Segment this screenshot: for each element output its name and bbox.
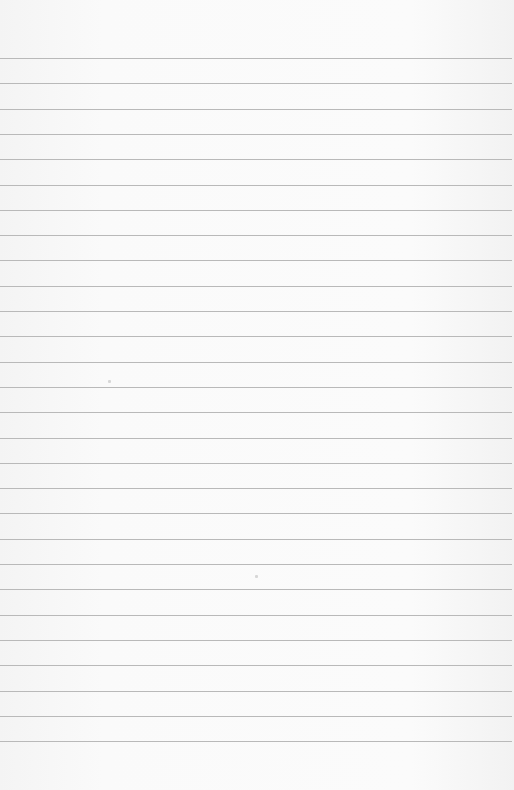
ruled-line xyxy=(0,488,512,489)
ruled-line xyxy=(0,539,512,540)
ruled-line xyxy=(0,716,512,717)
ruled-line xyxy=(0,286,512,287)
ruled-line xyxy=(0,336,512,337)
ruled-line xyxy=(0,564,512,565)
ruled-line xyxy=(0,134,512,135)
ruled-line xyxy=(0,260,512,261)
ruled-line xyxy=(0,741,512,742)
ruled-line xyxy=(0,362,512,363)
ruled-line xyxy=(0,235,512,236)
ruled-line xyxy=(0,109,512,110)
ruled-line xyxy=(0,83,512,84)
ruled-line xyxy=(0,412,512,413)
ruled-line xyxy=(0,691,512,692)
ruled-line xyxy=(0,615,512,616)
ruled-line xyxy=(0,210,512,211)
paper-speck xyxy=(255,575,258,578)
paper-speck xyxy=(108,380,111,383)
ruled-line xyxy=(0,640,512,641)
ruled-line xyxy=(0,589,512,590)
ruled-line xyxy=(0,159,512,160)
ruled-line xyxy=(0,311,512,312)
ruled-line xyxy=(0,438,512,439)
ruled-line xyxy=(0,58,512,59)
ruled-line xyxy=(0,665,512,666)
ruled-line xyxy=(0,387,512,388)
ruled-line xyxy=(0,513,512,514)
lined-paper xyxy=(0,0,514,790)
ruled-line xyxy=(0,185,512,186)
ruled-line xyxy=(0,463,512,464)
